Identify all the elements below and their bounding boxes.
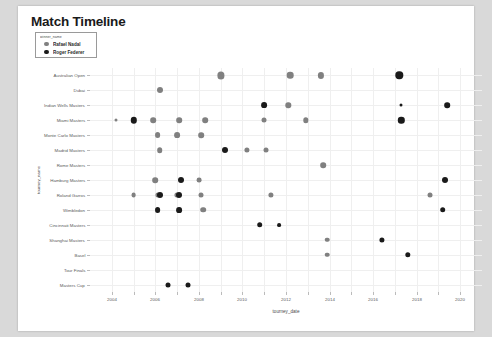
data-point[interactable] [285,103,290,108]
legend-swatch-federer [44,50,49,55]
x-axis-tick [417,292,418,295]
data-point[interactable] [444,103,450,109]
y-axis-tick-label: Basel [74,252,85,257]
page-title: Match Timeline [31,14,125,29]
screenshot-root: Match Timeline winner_name Rafael NadalR… [0,0,492,337]
data-point[interactable] [157,87,163,93]
y-axis-tick [87,285,90,286]
y-axis-tick [87,210,90,211]
x-axis-tick [460,292,461,295]
gridline-vertical [112,68,113,292]
x-axis-tick [112,292,113,295]
data-point[interactable] [442,177,448,183]
y-axis-tick-label: Monte Carlo Masters [44,133,85,138]
data-point[interactable] [176,207,182,213]
data-point[interactable] [115,119,118,122]
legend: winner_name Rafael NadalRoger Federer [35,32,97,58]
y-axis-tick-label: Shanghai Masters [50,237,85,242]
gridline-vertical [134,68,135,292]
data-point[interactable] [198,132,204,138]
gridline-vertical [351,68,352,292]
data-point[interactable] [153,177,159,183]
x-axis-tick-label: 2004 [107,297,117,302]
gridline-vertical [395,68,396,292]
data-point[interactable] [400,104,403,107]
x-axis-tick [395,292,396,295]
data-point[interactable] [131,193,136,198]
y-axis-tick-label: Madrid Masters [55,148,85,153]
legend-label-nadal: Rafael Nadal [53,41,81,47]
legend-title: winner_name [40,35,97,40]
data-point[interactable] [264,148,269,153]
y-axis-tick [87,240,90,241]
x-axis-tick [308,292,309,295]
data-point[interactable] [287,72,294,79]
gridline-vertical [308,68,309,292]
data-point[interactable] [174,132,180,138]
x-axis-tick-label: 2014 [325,297,335,302]
data-point[interactable] [244,148,249,153]
x-axis-tick [351,292,352,295]
data-point[interactable] [186,282,191,287]
data-point[interactable] [318,72,324,78]
data-point[interactable] [325,237,330,242]
data-point[interactable] [278,223,282,227]
gridline-vertical [242,68,243,292]
chart-card: Match Timeline winner_name Rafael NadalR… [18,6,474,331]
data-point[interactable] [157,192,163,198]
data-point[interactable] [166,282,171,287]
data-point[interactable] [257,222,263,228]
y-axis-tick-label: Miami Masters [56,118,85,123]
x-axis-title: tourney_date [273,309,300,314]
data-point[interactable] [396,72,403,79]
gridline-vertical [460,68,461,292]
gridline-vertical [221,68,222,292]
data-point[interactable] [379,237,384,242]
data-point[interactable] [262,118,267,123]
data-point[interactable] [320,162,326,168]
y-axis-tick [87,75,90,76]
data-point[interactable] [203,117,209,123]
data-point[interactable] [440,207,446,213]
data-point[interactable] [217,72,224,79]
x-axis-tick [438,292,439,295]
legend-item-federer[interactable]: Roger Federer [44,48,93,56]
data-point[interactable] [150,117,156,123]
x-axis-tick-label: 2012 [281,297,291,302]
x-axis-tick-label: 2010 [238,297,248,302]
data-point[interactable] [178,177,184,183]
y-axis-tick-label: Masters Cup [60,282,85,287]
data-point[interactable] [176,117,182,123]
gridline-vertical [330,68,331,292]
x-axis-tick [134,292,135,295]
y-axis-tick [87,120,90,121]
x-axis-tick [264,292,265,295]
legend-item-nadal[interactable]: Rafael Nadal [44,40,93,48]
data-point[interactable] [261,102,267,108]
data-point[interactable] [427,192,432,197]
y-axis-tick-label: Hamburg Masters [50,177,85,182]
y-axis-tick-label: Wimbledon [63,207,85,212]
y-axis-tick [87,135,90,136]
data-point[interactable] [130,117,136,123]
data-point[interactable] [157,147,163,153]
gridline-vertical [417,68,418,292]
data-point[interactable] [176,192,182,198]
data-point[interactable] [398,117,404,123]
gridline-vertical [373,68,374,292]
gridline-vertical [286,68,287,292]
data-point[interactable] [268,192,273,197]
x-axis-tick [242,292,243,295]
data-point[interactable] [196,178,201,183]
y-axis-tick [87,225,90,226]
x-axis-tick [221,292,222,295]
data-point[interactable] [405,252,410,257]
data-point[interactable] [325,252,330,257]
data-point[interactable] [155,207,161,213]
x-axis-tick-label: 2016 [368,297,378,302]
y-axis-tick [87,255,90,256]
data-point[interactable] [199,192,204,197]
data-point[interactable] [200,207,206,213]
data-point[interactable] [222,147,228,153]
data-point[interactable] [155,132,161,138]
